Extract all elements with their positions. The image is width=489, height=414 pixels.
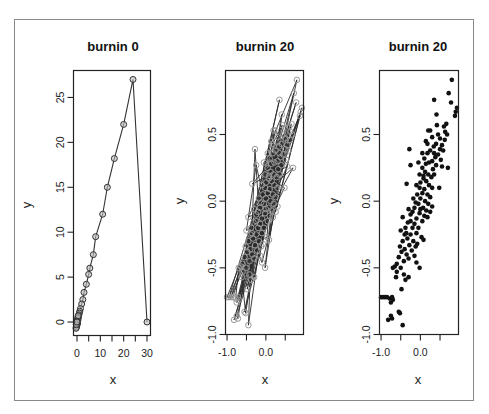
data-point xyxy=(398,228,403,233)
data-point xyxy=(424,162,429,167)
data-point xyxy=(404,231,409,236)
data-point xyxy=(130,76,136,82)
data-point xyxy=(398,311,403,316)
panel-1-plot-area xyxy=(73,76,150,331)
y-tick-label: 15 xyxy=(54,181,66,193)
data-point xyxy=(420,191,425,196)
data-point xyxy=(420,219,425,224)
data-point xyxy=(81,289,87,295)
data-point xyxy=(391,266,396,271)
data-point xyxy=(394,270,399,275)
data-point xyxy=(111,156,117,162)
data-point xyxy=(417,211,422,216)
data-point xyxy=(406,207,411,212)
data-point xyxy=(399,287,404,292)
x-tick-label: 10 xyxy=(94,347,106,359)
data-point xyxy=(426,128,431,133)
data-point xyxy=(424,179,429,184)
data-point xyxy=(414,260,419,265)
data-point xyxy=(121,121,127,127)
x-tick-label: 0.0 xyxy=(413,346,428,358)
data-point xyxy=(425,142,430,147)
data-point xyxy=(420,151,425,156)
data-point xyxy=(93,234,99,240)
panel-2-title: burnin 20 xyxy=(236,39,295,54)
data-point xyxy=(436,132,441,137)
data-point xyxy=(426,202,431,207)
x-tick-label: 0.0 xyxy=(259,346,274,358)
data-point xyxy=(418,180,423,185)
data-point xyxy=(439,158,444,163)
data-point xyxy=(432,98,437,103)
data-point xyxy=(90,252,96,258)
data-point xyxy=(450,78,455,83)
panel-2-plot-area xyxy=(224,77,304,328)
data-point xyxy=(409,248,414,253)
data-point xyxy=(412,222,417,227)
y-tick-label: -1.0 xyxy=(360,325,372,343)
panel-2-ylabel: y xyxy=(172,197,187,204)
data-point xyxy=(431,167,436,172)
data-point xyxy=(394,275,399,280)
data-point xyxy=(399,250,404,255)
data-point xyxy=(391,298,396,303)
data-point xyxy=(417,186,422,191)
data-point xyxy=(75,313,81,319)
data-point xyxy=(416,160,421,165)
data-point xyxy=(442,124,447,129)
data-point xyxy=(404,252,409,257)
data-point xyxy=(432,151,437,156)
data-point xyxy=(398,244,403,249)
data-point xyxy=(418,196,423,201)
data-point xyxy=(74,319,80,325)
data-point xyxy=(421,174,426,179)
panel-3-plot-area xyxy=(379,78,459,328)
y-tick-label: 25 xyxy=(54,91,66,103)
data-point xyxy=(400,323,405,328)
data-point xyxy=(418,207,423,212)
data-point xyxy=(416,226,421,231)
data-point xyxy=(408,219,413,224)
panel-2-xlabel: x xyxy=(262,372,269,387)
data-point xyxy=(424,208,429,213)
data-point xyxy=(422,187,427,192)
panel-1-axes: 01020300510152025 xyxy=(54,91,153,358)
panel-1-title: burnin 0 xyxy=(87,39,138,54)
data-point xyxy=(430,204,435,209)
data-point xyxy=(407,147,412,152)
data-point xyxy=(83,281,89,287)
data-point xyxy=(412,206,417,211)
panel-2: burnin 20 -1.00.0-1.0-0.50.00.5 x y xyxy=(172,39,305,387)
data-point xyxy=(403,226,408,231)
data-point xyxy=(414,231,419,236)
data-point xyxy=(435,123,440,128)
data-point xyxy=(441,148,446,153)
data-point xyxy=(86,271,92,277)
y-tick-label: -0.5 xyxy=(360,259,372,277)
y-tick-label: 0.5 xyxy=(360,127,372,142)
data-point xyxy=(411,196,416,201)
y-tick-label: 0.0 xyxy=(206,194,218,209)
data-point xyxy=(440,143,445,148)
x-tick-label: 0 xyxy=(74,347,80,359)
data-point xyxy=(404,182,409,187)
panel-3: burnin 20 -1.00.0-1.0-0.50.00.5 x y xyxy=(326,39,459,387)
data-point xyxy=(408,232,413,237)
panel-3-xlabel: x xyxy=(415,372,422,387)
panel-1-ylabel: y xyxy=(19,201,34,208)
y-tick-label: -1.0 xyxy=(206,325,218,343)
panel-3-ylabel: y xyxy=(326,197,341,204)
data-point xyxy=(432,172,437,177)
data-point xyxy=(433,155,438,160)
data-point xyxy=(411,239,416,244)
data-point xyxy=(407,243,412,248)
data-point xyxy=(396,255,401,260)
data-point xyxy=(406,256,411,261)
y-tick-label: 5 xyxy=(54,274,66,280)
figure: burnin 0 01020300510152025 x y burnin 20… xyxy=(0,0,489,414)
data-point xyxy=(446,91,451,96)
panel-1-xlabel: x xyxy=(110,372,117,387)
y-tick-label: 10 xyxy=(54,226,66,238)
data-point xyxy=(390,316,395,321)
data-point xyxy=(449,100,454,105)
